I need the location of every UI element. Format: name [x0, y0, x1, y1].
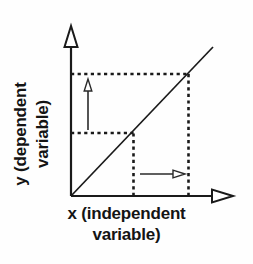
y-axis-label-line2: variable): [32, 54, 54, 214]
delta-x-arrowhead-icon: [173, 170, 185, 178]
y-axis-arrowhead-icon: [65, 26, 78, 47]
y-axis-label: y (dependent variable): [10, 54, 54, 214]
x-axis-label-line2: variable): [0, 224, 253, 245]
delta-x-arrow: [140, 170, 185, 178]
y-axis-label-line1: y (dependent: [10, 54, 32, 214]
y-axis: [65, 26, 78, 196]
delta-y-arrowhead-icon: [84, 79, 92, 91]
delta-y-arrow: [84, 79, 92, 130]
x-axis: [71, 190, 233, 203]
x-axis-arrowhead-icon: [212, 190, 233, 203]
linear-relationship-diagram: x (independent variable) y (dependent va…: [0, 0, 253, 264]
